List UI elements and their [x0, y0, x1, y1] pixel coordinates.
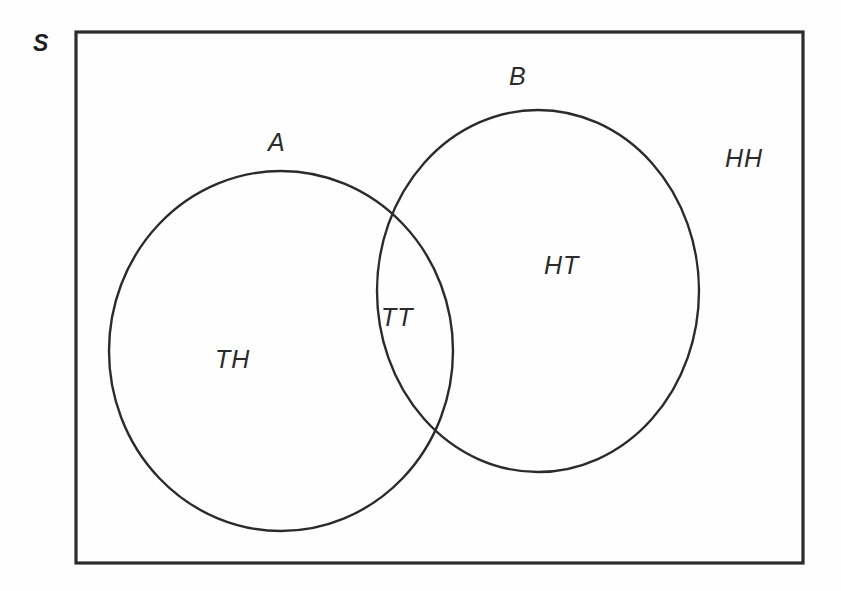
set-b-label: B: [509, 62, 526, 91]
venn-diagram-canvas: [0, 0, 841, 591]
region-label-b-only: HT: [544, 251, 579, 280]
set-a-label: A: [268, 128, 285, 157]
universe-label: S: [33, 30, 49, 57]
set-b-circle: [377, 110, 699, 472]
universe-rectangle: [76, 32, 803, 563]
set-a-circle: [109, 171, 453, 531]
venn-diagram-figure: S A B TH TT HT HH: [0, 0, 841, 591]
region-label-intersection: TT: [381, 303, 414, 332]
region-label-a-only: TH: [215, 345, 250, 374]
region-label-outside: HH: [725, 144, 763, 173]
